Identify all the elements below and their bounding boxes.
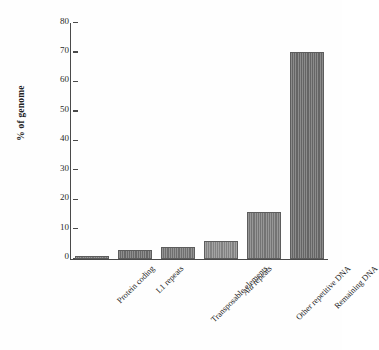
y-axis-line xyxy=(70,23,71,260)
y-tick-10: 10 xyxy=(30,228,78,229)
y-tick-mark xyxy=(73,22,78,23)
y-tick-50: 50 xyxy=(30,110,78,111)
y-tick-label: 10 xyxy=(45,222,69,232)
bar xyxy=(161,247,195,259)
y-tick-mark xyxy=(73,81,78,82)
y-tick-label: 20 xyxy=(45,192,69,202)
bar xyxy=(247,212,281,259)
y-tick-mark xyxy=(73,228,78,229)
bar xyxy=(118,250,152,259)
bar xyxy=(204,241,238,259)
y-tick-mark xyxy=(73,140,78,141)
x-axis-line xyxy=(70,259,328,260)
y-tick-20: 20 xyxy=(30,199,78,200)
y-tick-label: 60 xyxy=(45,74,69,84)
y-tick-80: 80 xyxy=(30,22,78,23)
y-tick-label: 80 xyxy=(45,16,69,26)
y-tick-label: 30 xyxy=(45,163,69,173)
y-tick-mark xyxy=(73,51,78,52)
y-tick-label: 70 xyxy=(45,45,69,55)
y-tick-mark xyxy=(73,199,78,200)
y-tick-40: 40 xyxy=(30,140,78,141)
y-tick-mark xyxy=(73,169,78,170)
x-axis-label: Protein coding xyxy=(115,264,156,305)
y-tick-label: 0 xyxy=(45,251,69,261)
y-tick-label: 50 xyxy=(45,104,69,114)
bar xyxy=(75,256,109,259)
y-tick-0: 0 xyxy=(30,258,78,259)
y-tick-mark xyxy=(73,110,78,111)
plot-area: 01020304050607080 xyxy=(70,23,328,260)
y-tick-label: 40 xyxy=(45,133,69,143)
y-tick-60: 60 xyxy=(30,81,78,82)
y-tick-30: 30 xyxy=(30,169,78,170)
y-tick-70: 70 xyxy=(30,51,78,52)
bar xyxy=(290,52,324,258)
x-axis-label: L1 repeats xyxy=(154,264,185,295)
y-axis-title: % of genome xyxy=(16,68,26,158)
